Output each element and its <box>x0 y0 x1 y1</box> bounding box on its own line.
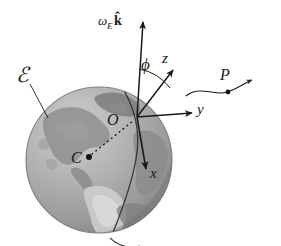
label-angle-phi: ϕ <box>141 55 150 74</box>
label-axis-y: y <box>195 101 204 117</box>
meridian-curve-tail <box>110 238 140 246</box>
label-angular-velocity-subscript: E <box>106 21 113 31</box>
label-axis-z: z <box>161 50 168 66</box>
earth-label-leader-line <box>30 84 48 118</box>
earth-rotating-frame-diagram: ℰ ω E k̂ ϕ z y x O C P <box>0 0 281 246</box>
label-angular-velocity-omega: ω <box>98 13 107 28</box>
z-axis-arrow <box>137 70 173 117</box>
label-center-C: C <box>71 149 82 166</box>
label-earth-frame: ℰ <box>16 63 31 87</box>
particle-path-curve <box>186 80 252 96</box>
globe-group <box>26 87 172 238</box>
center-point-dot <box>86 154 92 160</box>
label-origin-O: O <box>107 111 119 128</box>
label-unit-vector-k: k̂ <box>114 11 122 28</box>
label-axis-x: x <box>149 165 157 181</box>
label-particle-P: P <box>219 66 230 83</box>
figure-container: ℰ ω E k̂ ϕ z y x O C P <box>0 0 281 246</box>
